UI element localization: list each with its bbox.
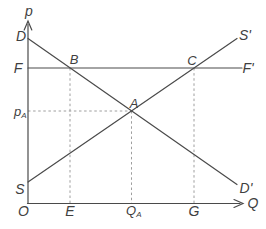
- p-axis-label: p: [24, 3, 33, 19]
- supply-start-label: S: [15, 181, 25, 197]
- tick-e-label: E: [65, 203, 75, 219]
- economics-diagram: p Q D D' S S' F F' A B C O E G pA QA: [0, 0, 266, 229]
- point-b-label: B: [70, 52, 79, 67]
- price-a-sub: A: [20, 111, 26, 120]
- solid-lines: [24, 21, 243, 208]
- tick-g-label: G: [189, 203, 200, 219]
- quantity-a-sub: A: [135, 210, 141, 219]
- point-c-label: C: [187, 53, 197, 68]
- demand-top-label: D: [16, 28, 26, 44]
- demand-end-label: D': [240, 180, 254, 196]
- supply-end-label: S': [239, 27, 252, 43]
- quantity-a-main: Q: [126, 203, 136, 218]
- price-a-label: pA: [13, 104, 27, 120]
- dashed-guides: [28, 68, 194, 203]
- price-a-main: p: [13, 104, 21, 119]
- floor-right-label: F': [242, 60, 255, 76]
- origin-label: O: [18, 203, 29, 219]
- diagram-canvas: p Q D D' S S' F F' A B C O E G pA QA: [0, 0, 266, 229]
- q-axis-label: Q: [248, 195, 259, 211]
- point-a-label: A: [129, 96, 139, 111]
- quantity-a-label: QA: [126, 203, 141, 219]
- floor-left-label: F: [14, 60, 24, 76]
